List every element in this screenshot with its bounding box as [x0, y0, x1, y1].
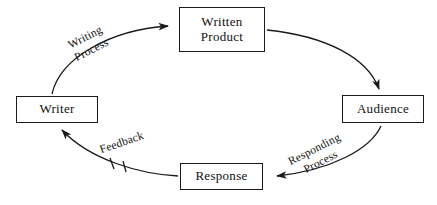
- node-audience-label: Audience: [357, 102, 409, 117]
- node-response-label: Response: [195, 169, 247, 184]
- edge-delivery-arc: [267, 30, 379, 89]
- node-audience[interactable]: Audience: [342, 95, 424, 123]
- node-written-product[interactable]: Written Product: [179, 7, 265, 52]
- node-response[interactable]: Response: [180, 163, 263, 190]
- node-writer[interactable]: Writer: [16, 96, 98, 123]
- communication-cycle-diagram: Written Product Audience Response Writer…: [0, 0, 437, 205]
- node-written-product-label: Written Product: [201, 15, 244, 44]
- feedback-break-marker-icon: [110, 158, 126, 172]
- edge-writing-process-arc: [52, 26, 168, 94]
- node-writer-label: Writer: [39, 102, 74, 117]
